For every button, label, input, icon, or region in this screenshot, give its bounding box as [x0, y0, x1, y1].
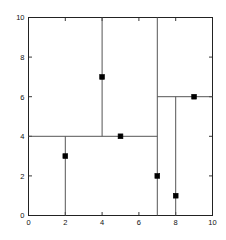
x-tick-label: 0 [26, 218, 30, 227]
x-tick-label: 4 [100, 218, 104, 227]
x-tick-label: 6 [137, 218, 141, 227]
x-tick-label: 2 [63, 218, 67, 227]
plot-border [29, 18, 213, 216]
y-tick-label: 10 [16, 13, 24, 22]
data-point-p1 [63, 154, 68, 159]
data-point-p2 [100, 75, 105, 80]
x-tick-label: 8 [174, 218, 178, 227]
y-tick-label: 8 [20, 53, 24, 62]
plot-canvas: 02468100246810 [0, 0, 226, 240]
y-tick-label: 6 [20, 93, 24, 102]
kd-tree-partition-figure: 02468100246810 [0, 0, 226, 240]
y-tick-label: 4 [20, 132, 24, 141]
data-point-p3 [118, 134, 123, 139]
data-point-p5 [173, 193, 178, 198]
x-tick-label: 10 [208, 218, 216, 227]
data-point-p4 [155, 174, 160, 179]
y-tick-label: 0 [20, 211, 24, 220]
y-tick-label: 2 [20, 172, 24, 181]
data-point-p6 [192, 94, 197, 99]
plot-frame [29, 18, 213, 216]
